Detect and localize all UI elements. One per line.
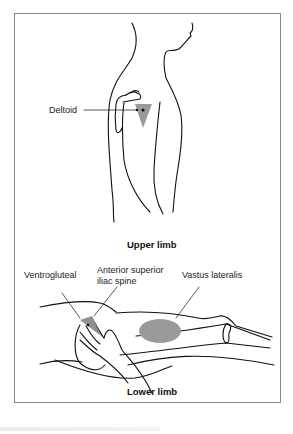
label-anterior-superior-line2: iliac spine bbox=[97, 276, 137, 286]
lower-body-outline bbox=[40, 302, 274, 393]
cropped-caption bbox=[0, 427, 160, 431]
label-ventrogluteal: Ventrogluteal bbox=[24, 270, 77, 280]
label-vastus-lateralis: Vastus lateralis bbox=[182, 270, 242, 280]
leader-lines bbox=[62, 110, 199, 318]
vastus-lateralis-site bbox=[139, 319, 181, 343]
upper-body-outline bbox=[108, 23, 193, 222]
label-anterior-superior-line1: Anterior superior bbox=[97, 265, 164, 275]
panel-title-lower-limb: Lower limb bbox=[127, 386, 177, 397]
deltoid-point bbox=[141, 108, 144, 111]
panel-title-upper-limb: Upper limb bbox=[127, 239, 177, 250]
injection-sites-illustration bbox=[0, 0, 293, 434]
label-deltoid: Deltoid bbox=[49, 105, 77, 115]
deltoid-site bbox=[135, 104, 152, 128]
